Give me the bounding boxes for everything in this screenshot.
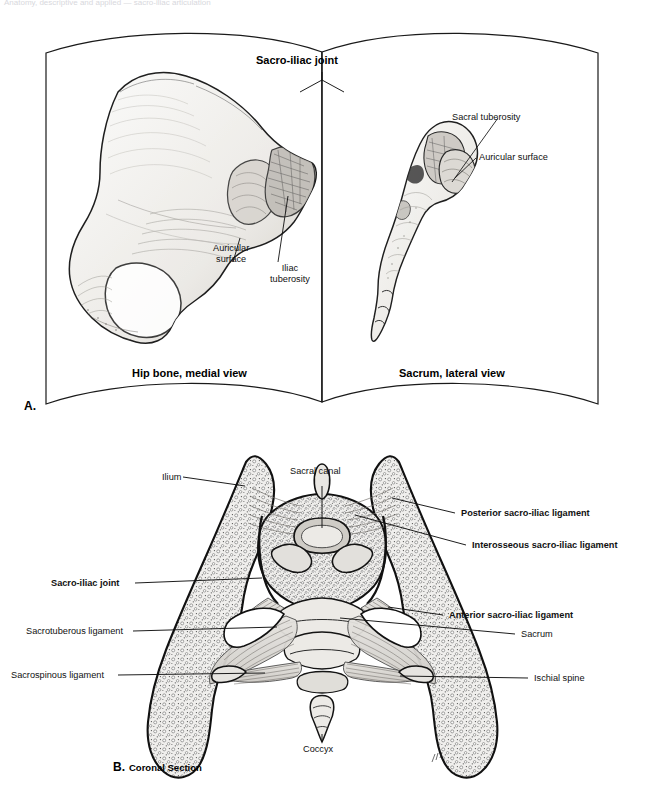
panel-a-right-caption: Sacrum, lateral view: [399, 367, 505, 379]
panel-b-caption: Coronal Section: [129, 762, 202, 773]
label-sacrospinous-ligament: Sacrospinous ligament: [11, 670, 104, 681]
panel-a-title: Sacro-iliac joint: [256, 54, 338, 66]
label-sacrum: Sacrum: [521, 629, 553, 640]
label-sacro-iliac-joint: Sacro-iliac joint: [51, 578, 119, 589]
label-sacral-canal: Sacral canal: [290, 466, 341, 477]
label-ilium: Ilium: [162, 472, 181, 483]
label-sacral-tuberosity: Sacral tuberosity: [452, 112, 520, 123]
panel-b-mark: B.: [113, 760, 125, 774]
label-anterior-sacro-iliac-ligament: Anterior sacro-iliac ligament: [449, 610, 573, 621]
faint-page-header: Anatomy, descriptive and applied — sacro…: [4, 0, 211, 7]
figure-artwork: [0, 0, 645, 811]
anatomy-figure: Anatomy, descriptive and applied — sacro…: [0, 0, 645, 811]
label-interosseous-sacro-iliac-ligament: Interosseous sacro-iliac ligament: [472, 540, 618, 551]
label-iliac-tuberosity: Iliac tuberosity: [270, 263, 310, 285]
label-coccyx: Coccyx: [303, 744, 333, 755]
label-ischial-spine: Ischial spine: [534, 673, 585, 684]
panel-a-left-caption: Hip bone, medial view: [132, 367, 247, 379]
label-sacrotuberous-ligament: Sacrotuberous ligament: [26, 626, 123, 637]
label-auricular-surface-sacrum: Auricular surface: [479, 152, 548, 163]
label-auricular-surface-hip: Auricular surface: [213, 243, 249, 265]
label-posterior-sacro-iliac-ligament: Posterior sacro-iliac ligament: [461, 508, 590, 519]
panel-a-mark: A.: [24, 399, 36, 413]
